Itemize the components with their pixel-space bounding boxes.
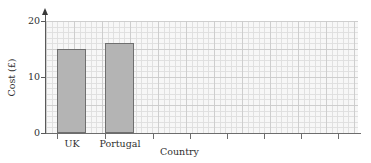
- x-tick-3: [190, 134, 191, 139]
- grid-overlay: [46, 21, 358, 133]
- y-tick-label-10: 10: [24, 71, 40, 82]
- y-tick-10: [41, 77, 46, 78]
- x-tick-7: [338, 134, 339, 139]
- y-tick-0: [41, 133, 46, 134]
- bar-portugal: [105, 43, 134, 133]
- y-axis-arrow-icon: [42, 8, 48, 15]
- x-axis-title: Country: [0, 146, 371, 157]
- y-tick-label-0: 0: [24, 127, 40, 138]
- x-tick-4: [227, 134, 228, 139]
- y-tick-label-20: 20: [24, 15, 40, 26]
- plot-area: [46, 21, 358, 133]
- x-tick-6: [301, 134, 302, 139]
- bar-chart: 20 10 0 UK Portugal Cost (£) Country: [0, 0, 371, 163]
- y-axis-title: Cost (£): [6, 48, 17, 108]
- x-axis-line: [42, 133, 361, 134]
- x-axis-title-text: Country: [160, 146, 199, 157]
- x-tick-2: [153, 134, 154, 139]
- x-tick-5: [264, 134, 265, 139]
- y-tick-20: [41, 21, 46, 22]
- bar-uk: [57, 49, 86, 133]
- y-axis-line: [45, 14, 46, 134]
